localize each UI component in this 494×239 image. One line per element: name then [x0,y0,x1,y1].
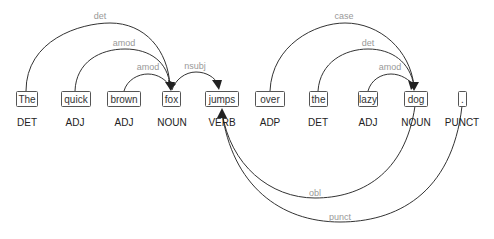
pos-tag: ADJ [115,117,134,128]
token-text: . [461,94,464,105]
token-text: lazy [359,94,377,105]
token-text: dog [408,94,425,105]
token-text: The [18,94,36,105]
pos-tag: ADP [260,117,281,128]
pos-tag: NOUN [401,117,430,128]
arc-label: nsubj [184,61,206,71]
token-0: The DET [17,92,38,129]
token-7: lazy ADJ [359,92,378,129]
token-text: over [260,94,280,105]
arc-det-the-fox: det [26,11,170,91]
token-6: the DET [308,92,328,129]
arc-label: det [362,38,375,48]
token-8: dog NOUN [401,92,430,129]
pos-tag: ADJ [66,117,85,128]
dependency-diagram: det amod amod nsubj case det amod obl pu… [0,0,494,239]
arc-amod-lazy-dog: amod [368,62,414,91]
token-text: fox [165,94,178,105]
pos-tag: PUNCT [445,117,479,128]
arc-nsubj-fox-jumps: nsubj [172,61,218,90]
arc-label: obl [309,188,321,198]
token-3: fox NOUN [157,92,186,129]
token-text: quick [64,94,88,105]
token-text: the [312,94,326,105]
arc-label: amod [137,62,160,72]
token-2: brown ADJ [108,92,141,129]
pos-tag: VERB [208,117,236,128]
arc-label: det [94,11,107,21]
arc-label: case [334,11,353,21]
token-5: over ADP [256,92,285,129]
arc-label: amod [113,38,136,48]
pos-tag: NOUN [157,117,186,128]
arc-case-over-dog: case [270,11,414,91]
arc-label: punct [329,212,352,222]
token-1: quick ADJ [62,92,91,129]
pos-tag: ADJ [359,117,378,128]
pos-tag: DET [308,117,328,128]
token-text: brown [110,94,137,105]
token-text: jumps [208,94,236,105]
arrowhead-icon [212,80,222,90]
arc-label: amod [379,62,402,72]
pos-tag: DET [17,117,37,128]
